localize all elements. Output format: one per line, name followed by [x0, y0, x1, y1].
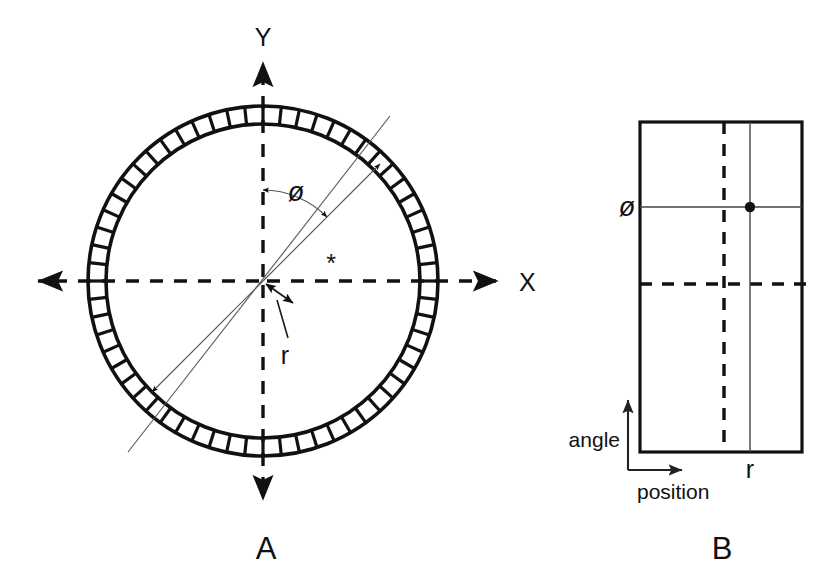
ring-segment-divider	[417, 314, 435, 318]
ring-segment-divider	[146, 151, 158, 164]
ring-segment-divider	[121, 373, 136, 384]
ring-segment-divider	[279, 437, 281, 455]
ring-segment-divider	[312, 430, 318, 447]
ring-segment-divider	[245, 437, 247, 455]
ring-segment-divider	[279, 107, 281, 125]
ring-segment-divider	[133, 386, 146, 398]
ring-segment-divider	[111, 360, 127, 369]
ring-segment-divider	[146, 398, 158, 411]
panel-a-group: ø * r X Y A	[38, 23, 536, 566]
r-label-panel-b: r	[746, 455, 754, 483]
panel-b-group: ø r angle position B	[569, 122, 808, 566]
ring-segment-divider	[342, 417, 351, 433]
radial-ray-outward	[263, 164, 380, 281]
ring-segment-divider	[355, 139, 366, 154]
ring-segment-divider	[327, 121, 334, 137]
ring-segment-divider	[399, 360, 415, 369]
ring-segment-divider	[368, 398, 380, 411]
ring-segment-divider	[111, 194, 127, 203]
panel-a-label: A	[256, 531, 277, 566]
ring-segment-divider	[92, 245, 110, 249]
ring-segment-divider	[342, 129, 351, 145]
ring-segment-divider	[390, 178, 405, 189]
ring-segment-divider	[399, 194, 415, 203]
asterisk-marker: *	[326, 249, 336, 277]
panel-b-position-axis-label: position	[637, 480, 709, 503]
ring-segment-divider	[406, 345, 422, 352]
panel-b-angle-axis-label: angle	[569, 428, 620, 451]
ring-segment-divider	[245, 107, 247, 125]
r-offset-double-arrow	[266, 284, 293, 303]
ring-segment-divider	[406, 210, 422, 217]
ring-segment-divider	[380, 386, 393, 398]
ring-segment-divider	[390, 373, 405, 384]
ring-segment-divider	[160, 408, 171, 423]
ring-segment-divider	[133, 164, 146, 176]
ring-segment-divider	[89, 297, 107, 299]
ring-segment-divider	[419, 263, 437, 265]
ring-segment-divider	[97, 227, 114, 233]
phi-label-panel-b: ø	[619, 192, 636, 222]
ring-segment-divider	[296, 110, 300, 128]
ring-segment-divider	[368, 151, 380, 164]
ring-segment-divider	[227, 435, 231, 453]
axis-x-label: X	[519, 268, 536, 296]
ring-segment-divider	[209, 430, 215, 447]
ring-segment-divider	[296, 435, 300, 453]
ring-segment-divider	[419, 297, 437, 299]
ring-segment-divider	[89, 263, 107, 265]
ring-segment-divider	[312, 115, 318, 132]
ring-segment-divider	[412, 330, 429, 336]
panel-b-label: B	[712, 531, 733, 566]
r-label-panel-a: r	[281, 341, 289, 369]
axis-y-label: Y	[255, 23, 272, 51]
phi-label-panel-a: ø	[288, 177, 305, 207]
ring-segment-divider	[355, 408, 366, 423]
chord-line-offset	[128, 116, 390, 452]
ring-segment-divider	[412, 227, 429, 233]
ring-segment-divider	[192, 121, 199, 137]
ring-segment-divider	[103, 210, 119, 217]
ring-segment-divider	[160, 139, 171, 154]
ring-segment-divider	[417, 245, 435, 249]
panel-b-rectangle	[640, 122, 802, 452]
ring-segment-divider	[92, 314, 110, 318]
figure-canvas: ø * r X Y A	[0, 0, 827, 586]
ring-segment-divider	[327, 424, 334, 440]
ring-segment-divider	[176, 129, 185, 145]
figure-root: ø * r X Y A	[0, 0, 827, 586]
ring-segment-divider	[209, 115, 215, 132]
r-leader-line	[277, 300, 288, 338]
ring-segment-divider	[192, 424, 199, 440]
ring-segment-divider	[97, 330, 114, 336]
ring-segment-divider	[380, 164, 393, 176]
radial-ray-inward	[152, 281, 263, 392]
ring-segment-divider	[176, 417, 185, 433]
ring-segment-divider	[227, 110, 231, 128]
panel-b-point-marker	[745, 202, 755, 212]
ring-segment-divider	[103, 345, 119, 352]
ring-segment-divider	[121, 178, 136, 189]
